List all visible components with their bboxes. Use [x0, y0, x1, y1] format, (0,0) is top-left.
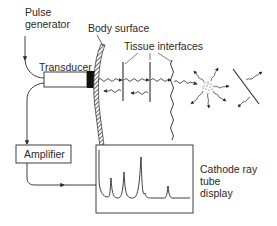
crt-label: Cathode ray — [200, 163, 257, 175]
interface-3-irregular — [171, 60, 174, 140]
body-surface-pointer — [97, 35, 103, 46]
pulse-generator-label-line2: generator — [25, 18, 70, 30]
crt-lead — [27, 163, 96, 185]
reflected-echoes — [104, 90, 148, 95]
amplifier-label: Amplifier — [24, 148, 65, 160]
transmitted-waves — [98, 79, 197, 85]
crt-label-line2: tube — [200, 175, 220, 187]
tissue-interfaces — [123, 53, 174, 140]
body-surface-label: Body surface — [88, 22, 149, 34]
pulse-generator-label: Pulse — [25, 6, 51, 18]
transducer-label: Transducer — [39, 61, 92, 73]
crt-label-line3: display — [200, 187, 233, 199]
oblique-reflector — [233, 69, 262, 107]
amplifier-lead — [27, 83, 44, 144]
tissue-interfaces-label: Tissue interfaces — [124, 40, 203, 52]
transducer — [44, 71, 97, 88]
